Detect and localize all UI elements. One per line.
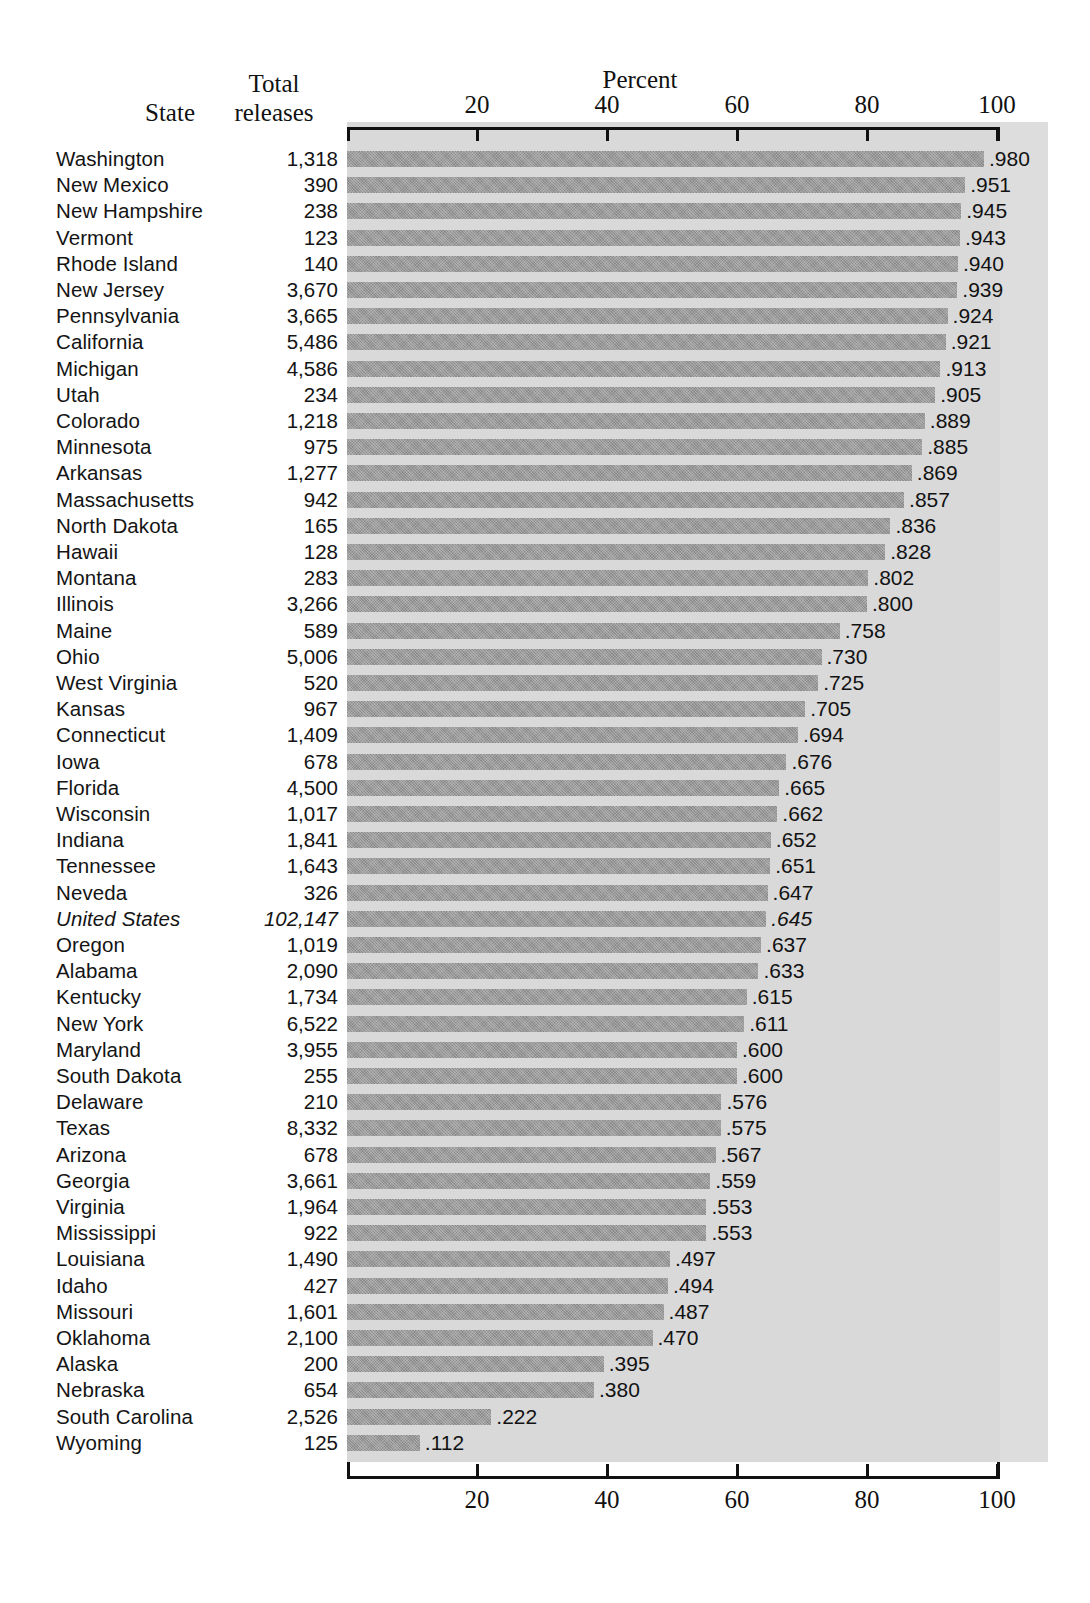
row-total-releases-value: 1,490	[200, 1246, 338, 1272]
row-bar-track: .980	[347, 146, 1000, 172]
table-row: Ohio5,006.730	[0, 644, 1090, 670]
row-total-releases-value: 589	[200, 618, 338, 644]
row-percent-value: .889	[930, 408, 971, 434]
row-bar	[347, 675, 818, 691]
row-bar	[347, 413, 925, 429]
row-bar	[347, 1330, 653, 1346]
table-row: Vermont123.943	[0, 225, 1090, 251]
row-bar-track: .857	[347, 487, 1000, 513]
row-total-releases-value: 678	[200, 749, 338, 775]
table-row: Texas8,332.575	[0, 1115, 1090, 1141]
row-bar	[347, 334, 946, 350]
row-total-releases-value: 165	[200, 513, 338, 539]
row-percent-value: .600	[742, 1063, 783, 1089]
row-bar-track: .694	[347, 722, 1000, 748]
table-row: Oregon1,019.637	[0, 932, 1090, 958]
row-bar	[347, 387, 935, 403]
table-row: Virginia1,964.553	[0, 1194, 1090, 1220]
table-row: New Jersey3,670.939	[0, 277, 1090, 303]
row-percent-value: .913	[945, 356, 986, 382]
table-row: Washington1,318.980	[0, 146, 1090, 172]
row-percent-value: .939	[962, 277, 1003, 303]
row-percent-value: .828	[890, 539, 931, 565]
row-percent-value: .836	[895, 513, 936, 539]
row-bar	[347, 754, 786, 770]
table-row: Missouri1,601.487	[0, 1299, 1090, 1325]
row-bar	[347, 1225, 706, 1241]
table-row: Utah234.905	[0, 382, 1090, 408]
row-bar-track: .615	[347, 984, 1000, 1010]
table-row: North Dakota165.836	[0, 513, 1090, 539]
row-bar-track: .905	[347, 382, 1000, 408]
row-percent-value: .559	[715, 1168, 756, 1194]
row-percent-value: .553	[711, 1194, 752, 1220]
row-total-releases-value: 5,006	[200, 644, 338, 670]
table-row: Maryland3,955.600	[0, 1037, 1090, 1063]
row-bar	[347, 230, 960, 246]
row-bar-track: .647	[347, 880, 1000, 906]
row-bar-track: .559	[347, 1168, 1000, 1194]
row-bar-track: .951	[347, 172, 1000, 198]
row-bar-track: .395	[347, 1351, 1000, 1377]
row-total-releases-value: 125	[200, 1430, 338, 1456]
row-total-releases-value: 1,601	[200, 1299, 338, 1325]
row-total-releases-value: 1,318	[200, 146, 338, 172]
table-row: United States102,147.645	[0, 906, 1090, 932]
chart-rows: Washington1,318.980New Mexico390.951New …	[0, 0, 1090, 1603]
row-bar-track: .497	[347, 1246, 1000, 1272]
row-bar	[347, 1016, 744, 1032]
row-total-releases-value: 1,277	[200, 460, 338, 486]
row-bar-track: .705	[347, 696, 1000, 722]
row-total-releases-value: 654	[200, 1377, 338, 1403]
row-percent-value: .637	[766, 932, 807, 958]
row-bar-track: .553	[347, 1220, 1000, 1246]
row-bar-track: .652	[347, 827, 1000, 853]
row-bar-track: .553	[347, 1194, 1000, 1220]
row-bar-track: .730	[347, 644, 1000, 670]
row-percent-value: .924	[953, 303, 994, 329]
table-row: Arkansas1,277.869	[0, 460, 1090, 486]
row-bar	[347, 1042, 737, 1058]
row-total-releases-value: 128	[200, 539, 338, 565]
table-row: Nebraska654.380	[0, 1377, 1090, 1403]
row-bar-track: .924	[347, 303, 1000, 329]
row-total-releases-value: 3,670	[200, 277, 338, 303]
row-total-releases-value: 3,661	[200, 1168, 338, 1194]
row-total-releases-value: 1,734	[200, 984, 338, 1010]
table-row: Wyoming125.112	[0, 1430, 1090, 1456]
row-percent-value: .665	[784, 775, 825, 801]
row-total-releases-value: 967	[200, 696, 338, 722]
row-total-releases-value: 210	[200, 1089, 338, 1115]
row-bar	[347, 1278, 668, 1294]
row-bar	[347, 832, 771, 848]
row-bar-track: .889	[347, 408, 1000, 434]
row-bar-track: .758	[347, 618, 1000, 644]
row-bar-track: .633	[347, 958, 1000, 984]
row-bar	[347, 1251, 670, 1267]
row-total-releases-value: 1,218	[200, 408, 338, 434]
row-total-releases-value: 140	[200, 251, 338, 277]
row-bar	[347, 1173, 710, 1189]
row-total-releases-value: 2,090	[200, 958, 338, 984]
row-bar	[347, 1199, 706, 1215]
table-row: Rhode Island140.940	[0, 251, 1090, 277]
row-bar	[347, 256, 958, 272]
row-total-releases-value: 1,017	[200, 801, 338, 827]
table-row: Neveda326.647	[0, 880, 1090, 906]
row-bar	[347, 1409, 491, 1425]
row-total-releases-value: 1,964	[200, 1194, 338, 1220]
row-bar	[347, 282, 957, 298]
table-row: West Virginia520.725	[0, 670, 1090, 696]
row-percent-value: .725	[823, 670, 864, 696]
row-total-releases-value: 942	[200, 487, 338, 513]
row-bar	[347, 1120, 721, 1136]
row-bar-track: .600	[347, 1063, 1000, 1089]
row-percent-value: .980	[989, 146, 1030, 172]
table-row: Alaska200.395	[0, 1351, 1090, 1377]
row-percent-value: .575	[726, 1115, 767, 1141]
row-percent-value: .945	[966, 198, 1007, 224]
row-bar	[347, 361, 940, 377]
row-percent-value: .662	[782, 801, 823, 827]
row-total-releases-value: 2,526	[200, 1404, 338, 1430]
table-row: Connecticut1,409.694	[0, 722, 1090, 748]
